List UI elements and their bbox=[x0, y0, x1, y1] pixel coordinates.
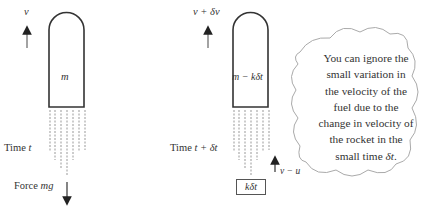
mass-label: m bbox=[61, 71, 69, 82]
time-delta-label-var: t + δt bbox=[194, 142, 217, 153]
force-label-var: mg bbox=[41, 180, 54, 191]
right-exhaust bbox=[234, 110, 269, 176]
time-label-var: t bbox=[28, 142, 31, 153]
note-line: fuel due to the bbox=[318, 99, 414, 115]
note-line: small variation in bbox=[318, 66, 414, 82]
force-label: Force mg bbox=[14, 180, 53, 191]
right-rocket-body bbox=[233, 13, 268, 108]
reduced-mass-label: m − kδt bbox=[232, 71, 263, 82]
time-label-prefix: Time bbox=[4, 142, 28, 153]
time-delta-label-prefix: Time bbox=[170, 142, 194, 153]
note-last-var: δt bbox=[385, 150, 393, 162]
force-label-prefix: Force bbox=[14, 180, 41, 191]
note-last-prefix: small time bbox=[335, 150, 385, 162]
fuel-velocity-label: v − u bbox=[280, 166, 300, 176]
time-label: Time t bbox=[4, 142, 31, 153]
note-line: You can ignore the bbox=[318, 50, 414, 66]
note-last-suffix: . bbox=[394, 150, 397, 162]
note-line: the rocket in the bbox=[318, 131, 414, 147]
time-delta-label: Time t + δt bbox=[170, 142, 217, 153]
velocity-change-label: v + δv bbox=[193, 6, 220, 17]
left-rocket-body bbox=[49, 13, 84, 108]
velocity-label: v bbox=[24, 6, 29, 17]
fuel-mass-box: kδt bbox=[236, 179, 266, 195]
note-line: change in velocity of bbox=[318, 115, 414, 131]
note-line-last: small time δt. bbox=[318, 148, 414, 164]
note-line: the velocity of the bbox=[318, 83, 414, 99]
left-exhaust bbox=[50, 110, 85, 176]
note-text: You can ignore the small variation in th… bbox=[318, 50, 414, 164]
